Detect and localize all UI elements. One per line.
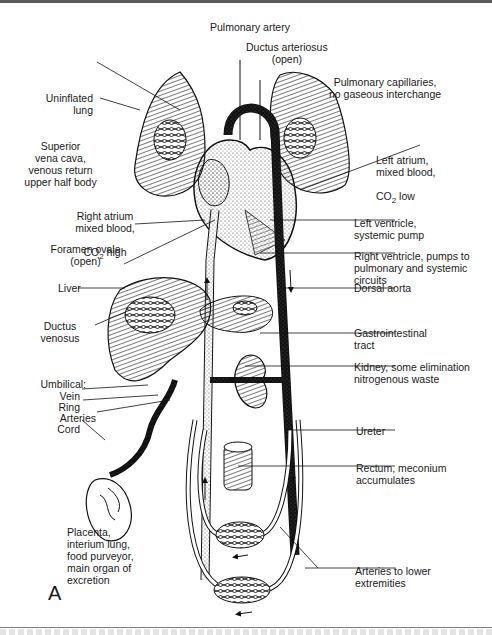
label-right-ventricle: Right ventricle, pumps to pulmonary and … [354,250,470,286]
capillary-bed-lower [214,577,270,603]
label-uninflated-lung: Uninflated lung [38,92,93,116]
label-umbilical: Umbilical: [20,378,86,390]
label-gastrointestinal-tract: Gastrointestinal tract [354,327,427,351]
label-arteries-lower-extremities: Arteries to lower extremities [355,565,431,589]
caption-divider [0,627,492,628]
label-ductus-venosus: Ductus venosus [35,320,85,344]
label-kidney: Kidney, some elimination nitrogenous was… [354,361,470,385]
label-left-ventricle: Left ventricle, systemic pump [354,217,424,241]
liver [108,278,211,381]
label-liver: Liver [58,282,81,294]
label-dorsal-aorta: Dorsal aorta [354,282,411,294]
label-rectum: Rectum, meconium accumulates [356,462,446,486]
label-superior-vena-cava: Superior vena cava, venous return upper … [8,140,113,188]
label-left-atrium: Left atrium, mixed blood, CO2 low [376,142,436,207]
label-foramen-ovale: Foramen ovale (open) [48,243,123,267]
caption-cutoff [0,629,492,635]
label-pulmonary-capillaries: Pulmonary capillaries, no gaseous interc… [329,76,441,100]
label-ureter: Ureter [356,425,385,437]
capillary-bed-upper [216,522,264,548]
panel-letter: A [48,582,61,605]
label-ductus-arteriosus: Ductus arteriosus (open) [246,41,328,65]
label-pulmonary-artery: Pulmonary artery [210,21,290,33]
label-placenta: Placenta, interium lung, food purveyor, … [67,526,134,586]
label-umbilical-cord: Cord [20,423,80,435]
